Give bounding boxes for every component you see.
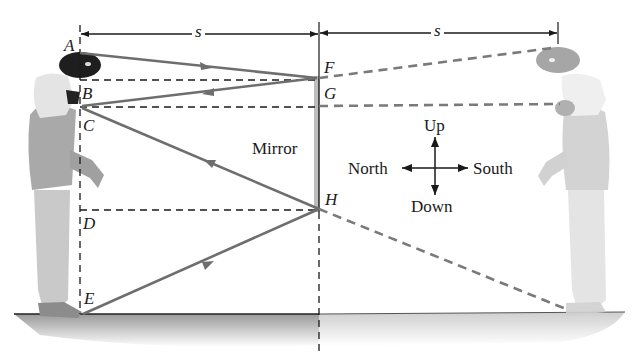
point-label-g: G — [324, 85, 336, 102]
virtual-rays — [319, 48, 566, 309]
ray-arrowheads — [200, 62, 216, 270]
ground — [14, 312, 625, 347]
person-image — [536, 47, 609, 316]
distance-label-right: s — [431, 22, 444, 39]
light-rays — [80, 53, 319, 314]
point-label-f: F — [324, 59, 334, 76]
person-real — [28, 52, 104, 318]
compass-arrows — [402, 137, 468, 195]
compass-up-label: Up — [424, 117, 445, 134]
point-label-h: H — [325, 191, 337, 208]
point-label-e: E — [84, 290, 94, 307]
plane-mirror-diagram: s s A B C D E F G H Mirror Up Down North… — [0, 0, 638, 352]
mirror-label: Mirror — [252, 140, 297, 157]
mirror — [314, 76, 319, 212]
point-label-c: C — [83, 117, 94, 134]
point-label-a: A — [64, 37, 74, 54]
compass-down-label: Down — [411, 198, 453, 215]
diagram-canvas — [0, 0, 638, 352]
compass-south-label: South — [473, 160, 513, 177]
compass-north-label: North — [348, 160, 388, 177]
point-label-b: B — [82, 85, 92, 102]
point-label-d: D — [83, 215, 95, 232]
distance-label-left: s — [192, 23, 205, 40]
